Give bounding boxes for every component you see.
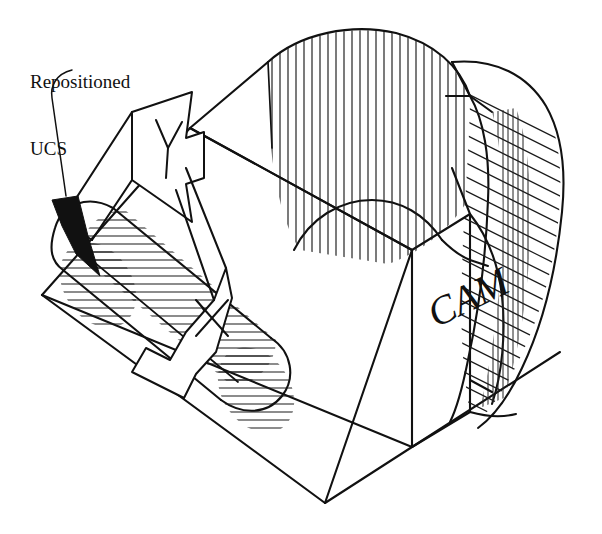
cam-front-face bbox=[190, 20, 470, 300]
ucs-annotation-line-1: Repositioned bbox=[30, 71, 130, 93]
box-edge-right-lower bbox=[412, 412, 470, 447]
box-edge-bottom-left bbox=[42, 295, 325, 503]
box-edge-top-left bbox=[190, 62, 268, 128]
cam-inner-curve-right bbox=[442, 240, 470, 260]
cam-front-vertical-hatch bbox=[272, 20, 464, 300]
cam-left-edge bbox=[268, 62, 272, 148]
box-edge-right-upper-fold bbox=[412, 214, 470, 250]
cam-facet-top bbox=[452, 62, 470, 96]
cam-facet-mid bbox=[452, 168, 470, 214]
cam-face-fold-line bbox=[190, 128, 412, 250]
ucs-x-arrow bbox=[132, 268, 232, 398]
ucs-annotation-label: Repositioned UCS bbox=[30, 26, 130, 205]
technical-drawing-canvas: CAM Repositioned UCS bbox=[0, 0, 602, 534]
box-edge-bottom-right bbox=[325, 447, 412, 503]
box-edge-interior-diagonal bbox=[325, 250, 412, 503]
ucs-annotation-line-2: UCS bbox=[30, 138, 130, 160]
cylinder-cap-right bbox=[221, 338, 290, 411]
